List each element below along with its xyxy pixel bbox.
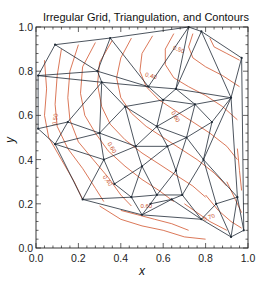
triangulation-edge bbox=[100, 133, 136, 146]
chart-title: Irregular Grid, Triangulation, and Conto… bbox=[43, 11, 250, 23]
y-tick-label: 0.6 bbox=[18, 109, 33, 121]
x-tick-label: 0.8 bbox=[198, 252, 213, 264]
grid-node bbox=[194, 103, 196, 105]
grid-node bbox=[236, 196, 238, 198]
triangulation-edge bbox=[102, 82, 125, 106]
grid-node bbox=[109, 37, 111, 39]
contour-label: 0.50 bbox=[51, 113, 59, 126]
triangulation-edge bbox=[55, 38, 110, 45]
triangulation-edge bbox=[110, 38, 148, 87]
triangulation-edge bbox=[104, 146, 136, 159]
grid-node bbox=[67, 121, 69, 123]
y-tick-label: 0.4 bbox=[18, 154, 33, 166]
y-tick-label: 0.8 bbox=[18, 65, 33, 77]
triangulation-edge bbox=[203, 98, 231, 160]
grid-node bbox=[130, 196, 132, 198]
grid-node bbox=[37, 128, 39, 130]
triangulation-edge bbox=[242, 58, 244, 230]
contour-line bbox=[121, 210, 189, 230]
grid-node bbox=[103, 159, 105, 161]
triangulation-edge bbox=[195, 98, 231, 105]
y-tick-labels: 0.00.20.40.60.81.0 bbox=[18, 21, 33, 254]
x-tick-label: 0.6 bbox=[156, 252, 171, 264]
y-tick-label: 0.0 bbox=[18, 242, 33, 254]
triangulation-edge bbox=[83, 199, 142, 214]
triangulation-edge bbox=[237, 197, 243, 230]
y-tick-label: 1.0 bbox=[18, 21, 33, 33]
x-tick-labels: 0.00.20.40.60.81.0 bbox=[29, 252, 256, 264]
triangulation-edge bbox=[216, 197, 237, 204]
contour-label: 0.70 bbox=[203, 212, 217, 222]
contour-line bbox=[206, 195, 242, 228]
y-tick-label: 0.2 bbox=[18, 198, 33, 210]
grid-node bbox=[211, 121, 213, 123]
contour-line bbox=[237, 149, 241, 191]
contour-labels: 0.500.400.600.700.600.400.500.60 bbox=[51, 45, 216, 223]
grid-node bbox=[54, 44, 56, 46]
triangulation-edge bbox=[148, 87, 176, 89]
grid-node bbox=[156, 125, 158, 127]
triangulation-edge bbox=[172, 199, 202, 219]
triangulation-edge bbox=[131, 166, 142, 197]
triangulation-edge bbox=[55, 144, 83, 199]
grid-node bbox=[82, 198, 84, 200]
grid-node bbox=[156, 194, 158, 196]
triangulation-edge bbox=[100, 133, 104, 160]
contour-chart: Irregular Grid, Triangulation, and Conto… bbox=[0, 0, 266, 291]
grid-node bbox=[124, 105, 126, 107]
triangulation-edge bbox=[176, 138, 187, 171]
triangulation-edge bbox=[136, 126, 157, 146]
grid-node bbox=[162, 99, 164, 101]
grid-node bbox=[141, 165, 143, 167]
triangulation-edge bbox=[131, 195, 156, 197]
contour-line bbox=[55, 49, 104, 202]
triangulation-edge bbox=[216, 204, 231, 237]
triangulation-edge bbox=[187, 104, 195, 137]
grid-node bbox=[147, 86, 149, 88]
triangulation-edge bbox=[148, 87, 163, 100]
grid-node bbox=[185, 136, 187, 138]
x-tick-label: 1.0 bbox=[241, 252, 256, 264]
grid-node bbox=[99, 132, 101, 134]
grid-node bbox=[54, 143, 56, 145]
grid-node bbox=[215, 203, 217, 205]
grid-node bbox=[181, 194, 183, 196]
grid-node bbox=[230, 97, 232, 99]
grid-node bbox=[37, 75, 39, 77]
contour-label: 0.40 bbox=[102, 174, 114, 188]
y-axis-label: y bbox=[3, 136, 17, 144]
grid-node bbox=[200, 30, 202, 32]
triangulation-edge bbox=[231, 98, 237, 197]
triangulation-edge bbox=[55, 45, 97, 72]
triangulation-edge bbox=[110, 27, 188, 38]
grid-node bbox=[149, 203, 151, 205]
x-tick-label: 0.4 bbox=[113, 252, 128, 264]
triangulation-edge bbox=[163, 89, 176, 100]
triangulation-edge bbox=[176, 89, 231, 98]
triangulation-edge bbox=[114, 184, 131, 197]
contour-line bbox=[140, 36, 238, 160]
triangulation-edge bbox=[38, 71, 97, 75]
grid-node bbox=[171, 198, 173, 200]
triangulation-edge bbox=[157, 171, 176, 195]
triangulation-edge bbox=[189, 27, 202, 31]
triangulation-edge bbox=[231, 230, 244, 237]
triangulation-edge bbox=[203, 122, 211, 160]
contour-label: 0.60 bbox=[106, 141, 117, 155]
grid-node bbox=[96, 70, 98, 72]
grid-node bbox=[175, 88, 177, 90]
grid-node bbox=[230, 236, 232, 238]
triangulation-edge bbox=[182, 160, 203, 195]
triangulation-edge bbox=[187, 122, 212, 137]
triangulation-edge bbox=[142, 146, 167, 166]
triangulation-edge bbox=[38, 76, 102, 83]
triangulation-edge bbox=[97, 38, 110, 71]
contour-label: 0.60 bbox=[170, 110, 181, 124]
grid-node bbox=[175, 170, 177, 172]
grid-node bbox=[113, 183, 115, 185]
grid-node bbox=[200, 218, 202, 220]
triangulation-edge bbox=[167, 146, 175, 170]
grid-node bbox=[202, 159, 204, 161]
triangulation-edge bbox=[55, 144, 104, 159]
triangulation-edge bbox=[195, 104, 212, 122]
